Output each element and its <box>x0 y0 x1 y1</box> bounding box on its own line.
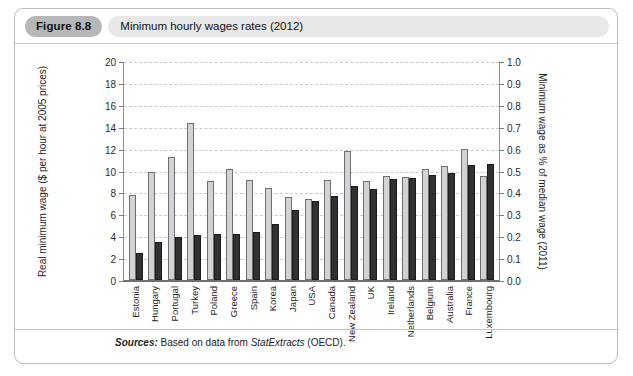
bar-group[interactable] <box>146 62 166 280</box>
bar-pct-of-median-wage[interactable] <box>409 178 416 280</box>
figure-header: Figure 8.8 Minimum hourly wages rates (2… <box>15 9 619 43</box>
right-axis-tick-label: 0.1 <box>507 254 521 265</box>
source-label: Sources: <box>115 337 158 348</box>
bar-real-minimum-wage[interactable] <box>207 181 214 280</box>
right-axis-tick <box>499 150 504 151</box>
left-axis-tick-label: 2 <box>110 254 116 265</box>
category-label: USA <box>306 286 317 306</box>
bar-pct-of-median-wage[interactable] <box>233 234 240 280</box>
left-axis-tick <box>119 281 124 282</box>
bar-real-minimum-wage[interactable] <box>480 176 487 280</box>
bar-group[interactable] <box>165 62 185 280</box>
bar-pct-of-median-wage[interactable] <box>272 224 279 280</box>
category-label: Canada <box>326 286 337 319</box>
bar-group[interactable] <box>419 62 439 280</box>
bar-real-minimum-wage[interactable] <box>246 180 253 280</box>
bar-pct-of-median-wage[interactable] <box>468 165 475 280</box>
right-axis-tick-label: 0.2 <box>507 232 521 243</box>
category-label: Estonia <box>129 286 140 318</box>
source-note: Sources: Based on data from StatExtracts… <box>115 337 346 348</box>
right-axis-tick-label: 0.3 <box>507 210 521 221</box>
bar-real-minimum-wage[interactable] <box>148 172 155 280</box>
category-label-cell: Australia <box>439 284 459 350</box>
bar-real-minimum-wage[interactable] <box>422 169 429 280</box>
category-label-cell: France <box>459 284 479 350</box>
right-axis-tick-label: 0.0 <box>507 276 521 287</box>
bar-real-minimum-wage[interactable] <box>129 195 136 280</box>
bar-real-minimum-wage[interactable] <box>305 199 312 280</box>
bar-group[interactable] <box>282 62 302 280</box>
category-label: Ireland <box>384 286 395 315</box>
bar-pct-of-median-wage[interactable] <box>448 173 455 280</box>
bar-real-minimum-wage[interactable] <box>363 181 370 280</box>
bar-group[interactable] <box>321 62 341 280</box>
right-axis-tick <box>499 237 504 238</box>
bar-real-minimum-wage[interactable] <box>168 157 175 280</box>
bar-pct-of-median-wage[interactable] <box>136 253 143 280</box>
right-axis-tick <box>499 193 504 194</box>
bar-group[interactable] <box>302 62 322 280</box>
bar-group[interactable] <box>263 62 283 280</box>
bar-pct-of-median-wage[interactable] <box>194 235 201 280</box>
bar-group[interactable] <box>380 62 400 280</box>
bar-real-minimum-wage[interactable] <box>383 176 390 280</box>
right-axis-tick-label: 0.8 <box>507 100 521 111</box>
category-label: Luxembourg <box>483 286 494 339</box>
bar-group[interactable] <box>360 62 380 280</box>
right-axis-tick-label: 1.0 <box>507 57 521 68</box>
left-axis-tick-label: 6 <box>110 210 116 221</box>
figure-number-badge: Figure 8.8 <box>25 16 102 37</box>
category-label: Portugal <box>169 286 180 321</box>
bar-pct-of-median-wage[interactable] <box>390 179 397 280</box>
left-axis-tick-label: 8 <box>110 188 116 199</box>
bar-pct-of-median-wage[interactable] <box>155 242 162 280</box>
category-label: Greece <box>227 286 238 317</box>
bar-pct-of-median-wage[interactable] <box>292 210 299 280</box>
right-axis-tick <box>499 84 504 85</box>
category-label: Japan <box>286 286 297 312</box>
bar-group[interactable] <box>224 62 244 280</box>
bar-group[interactable] <box>204 62 224 280</box>
bar-group[interactable] <box>458 62 478 280</box>
left-axis-tick-label: 4 <box>110 232 116 243</box>
bar-real-minimum-wage[interactable] <box>344 151 351 280</box>
bar-group[interactable] <box>439 62 459 280</box>
category-label-cell: Belgium <box>419 284 439 350</box>
bar-real-minimum-wage[interactable] <box>187 123 194 280</box>
left-axis-tick-label: 14 <box>105 122 116 133</box>
source-text-before: Based on data from <box>158 337 251 348</box>
bar-pct-of-median-wage[interactable] <box>487 164 494 280</box>
bar-pct-of-median-wage[interactable] <box>312 201 319 280</box>
category-label-cell: Luxembourg <box>478 284 498 350</box>
category-label-cell: Ireland <box>380 284 400 350</box>
bar-real-minimum-wage[interactable] <box>402 177 409 280</box>
bar-real-minimum-wage[interactable] <box>324 180 331 280</box>
category-label: France <box>463 286 474 316</box>
bar-real-minimum-wage[interactable] <box>285 197 292 280</box>
bar-group[interactable] <box>399 62 419 280</box>
bar-group[interactable] <box>243 62 263 280</box>
right-axis-tick-label: 0.5 <box>507 166 521 177</box>
category-label: Australia <box>443 286 454 323</box>
bar-pct-of-median-wage[interactable] <box>253 232 260 280</box>
bar-group[interactable] <box>478 62 498 280</box>
bar-real-minimum-wage[interactable] <box>441 166 448 280</box>
right-axis-tick <box>499 106 504 107</box>
category-label: Spain <box>247 286 258 310</box>
left-axis-tick-label: 18 <box>105 78 116 89</box>
bar-pct-of-median-wage[interactable] <box>331 196 338 280</box>
bar-group[interactable] <box>341 62 361 280</box>
bar-pct-of-median-wage[interactable] <box>175 237 182 280</box>
bar-real-minimum-wage[interactable] <box>226 169 233 280</box>
bar-pct-of-median-wage[interactable] <box>214 234 221 280</box>
bar-pct-of-median-wage[interactable] <box>370 189 377 280</box>
bar-group[interactable] <box>185 62 205 280</box>
bar-group[interactable] <box>126 62 146 280</box>
category-label-cell: UK <box>361 284 381 350</box>
source-text-after: (OECD). <box>305 337 346 348</box>
bar-real-minimum-wage[interactable] <box>461 149 468 280</box>
bar-pct-of-median-wage[interactable] <box>429 175 436 280</box>
category-label-cell: Netherlands <box>400 284 420 350</box>
bar-real-minimum-wage[interactable] <box>265 188 272 280</box>
bar-pct-of-median-wage[interactable] <box>351 186 358 280</box>
